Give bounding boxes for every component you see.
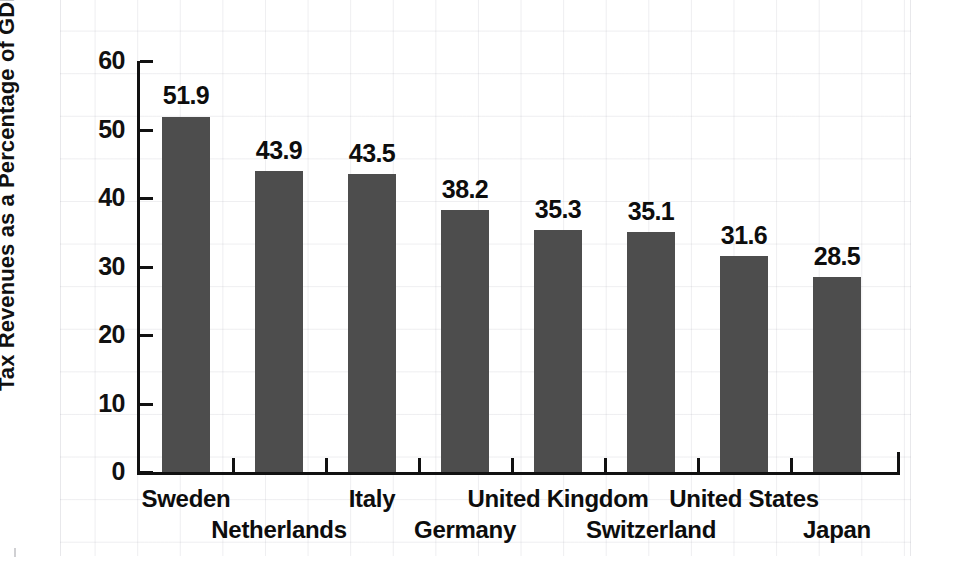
plot-area: 0102030405060 51.943.943.538.235.335.131…	[137, 61, 900, 475]
bar	[627, 232, 675, 472]
bar	[441, 210, 489, 472]
y-axis-tick-label: 40	[5, 185, 125, 210]
bar	[255, 171, 303, 472]
bar	[813, 277, 861, 472]
x-axis-tick	[511, 458, 514, 472]
bar	[162, 117, 210, 473]
x-axis-end-tick	[897, 452, 900, 472]
bar-value-label: 51.9	[126, 83, 246, 108]
y-axis-tick	[140, 197, 153, 200]
y-axis-tick-label: 20	[5, 322, 125, 347]
x-axis-category-label: United States	[634, 487, 854, 511]
y-axis-tick	[140, 471, 153, 474]
y-axis-tick	[140, 60, 153, 63]
bar	[348, 174, 396, 472]
y-axis-tick	[140, 334, 153, 337]
x-axis-tick	[325, 458, 328, 472]
y-axis-tick-label: 30	[5, 254, 125, 279]
y-axis-tick	[140, 403, 153, 406]
bar-value-label: 35.1	[591, 199, 711, 224]
scan-artifact	[14, 548, 16, 557]
x-axis-spine	[137, 472, 900, 475]
y-axis-tick-label: 50	[5, 117, 125, 142]
y-axis-tick	[140, 266, 153, 269]
x-axis-tick	[790, 458, 793, 472]
bar-value-label: 28.5	[777, 244, 897, 269]
bar	[720, 256, 768, 472]
paper-edge-right	[910, 0, 911, 556]
x-axis-tick	[697, 458, 700, 472]
x-axis-tick	[418, 458, 421, 472]
y-axis-tick-label: 10	[5, 391, 125, 416]
x-axis-category-label: Japan	[727, 518, 947, 542]
bar-value-label: 43.5	[312, 141, 432, 166]
y-axis-tick-label: 0	[5, 459, 125, 484]
y-axis-tick-label: 60	[5, 48, 125, 73]
bar	[534, 230, 582, 472]
chart-page: Tax Revenues as a Percentage of GDP 0102…	[0, 0, 971, 581]
y-axis-tick	[140, 129, 153, 132]
x-axis-tick	[604, 458, 607, 472]
x-axis-tick	[232, 458, 235, 472]
